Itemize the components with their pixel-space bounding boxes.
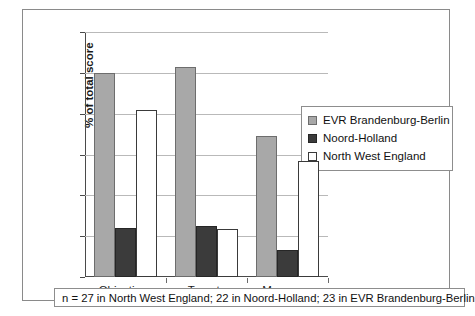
legend-label: Noord-Holland — [323, 132, 397, 144]
legend-item: North West England — [308, 148, 446, 164]
bar[interactable] — [136, 110, 157, 277]
legend-label: EVR Brandenburg-Berlin — [323, 114, 450, 126]
bar[interactable] — [94, 73, 115, 277]
y-axis-tick-mark — [80, 195, 85, 196]
bar[interactable] — [196, 226, 217, 277]
bar-group — [175, 32, 238, 277]
x-axis-tick-mark — [166, 278, 167, 283]
legend-swatch-icon — [308, 116, 317, 125]
plot-wrapper: % of total score 0102030405060 Objective… — [85, 32, 328, 278]
y-axis-tick-mark — [80, 114, 85, 115]
bar[interactable] — [115, 228, 136, 277]
bar[interactable] — [298, 161, 319, 277]
legend-swatch-icon — [308, 152, 317, 161]
y-axis-tick-mark — [80, 73, 85, 74]
legend-item: EVR Brandenburg-Berlin — [308, 112, 446, 128]
chart-legend: EVR Brandenburg-Berlin Noord-Holland Nor… — [301, 106, 453, 171]
caption-text: n = 27 in North West England; 22 in Noor… — [62, 292, 475, 304]
legend-swatch-icon — [308, 134, 317, 143]
y-axis-tick-mark — [80, 236, 85, 237]
bar-group — [94, 32, 157, 277]
x-axis-tick-mark — [247, 278, 248, 283]
y-axis-tick-mark — [80, 32, 85, 33]
bar[interactable] — [175, 67, 196, 277]
figure-frame: % of total score 0102030405060 Objective… — [22, 9, 450, 301]
y-axis-tick-mark — [80, 155, 85, 156]
bar[interactable] — [277, 250, 298, 277]
bar[interactable] — [217, 229, 238, 277]
bar[interactable] — [256, 136, 277, 277]
caption-box: n = 27 in North West England; 22 in Noor… — [54, 288, 465, 307]
legend-item: Noord-Holland — [308, 130, 446, 146]
legend-label: North West England — [323, 150, 426, 162]
x-axis-tick-mark — [328, 278, 329, 283]
y-axis-tick-mark — [80, 277, 85, 278]
